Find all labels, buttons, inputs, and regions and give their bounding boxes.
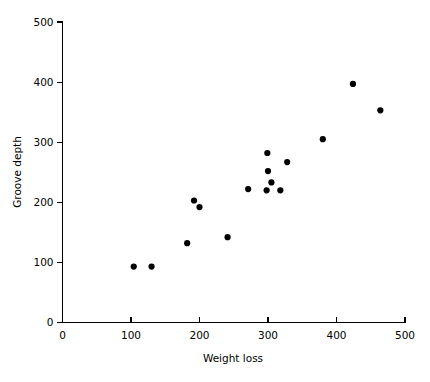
data-point xyxy=(264,150,270,156)
data-point xyxy=(350,81,356,87)
data-point xyxy=(264,187,270,193)
y-tick-label: 200 xyxy=(33,196,53,208)
x-tick-label: 0 xyxy=(59,329,66,341)
x-tick-label: 300 xyxy=(258,329,278,341)
y-tick-label: 400 xyxy=(33,76,53,88)
data-point xyxy=(377,107,383,113)
scatter-chart: 0100200300400500 0100200300400500 Weight… xyxy=(0,0,430,382)
y-axis-ticks: 0100200300400500 xyxy=(33,16,62,329)
data-point xyxy=(245,186,251,192)
y-axis-title: Groove depth xyxy=(11,136,23,208)
x-tick-label: 200 xyxy=(189,329,209,341)
data-point xyxy=(191,197,197,203)
y-tick-label: 100 xyxy=(33,256,53,268)
data-point xyxy=(320,136,326,142)
data-point xyxy=(277,187,283,193)
data-point xyxy=(148,264,154,270)
y-tick-label: 500 xyxy=(33,16,53,28)
data-point xyxy=(265,168,271,174)
data-point xyxy=(268,179,274,185)
y-tick-label: 0 xyxy=(47,316,54,328)
x-tick-label: 500 xyxy=(395,329,415,341)
x-axis-title: Weight loss xyxy=(203,352,263,364)
y-tick-label: 300 xyxy=(33,136,53,148)
data-point xyxy=(224,234,230,240)
scatter-plot-canvas: 0100200300400500 0100200300400500 Weight… xyxy=(0,0,430,382)
x-tick-label: 100 xyxy=(121,329,141,341)
data-points-layer xyxy=(131,81,384,270)
plot-axes xyxy=(63,22,406,323)
data-point xyxy=(196,204,202,210)
data-point xyxy=(131,264,137,270)
x-axis-ticks: 0100200300400500 xyxy=(59,317,415,341)
x-tick-label: 400 xyxy=(326,329,346,341)
data-point xyxy=(284,159,290,165)
data-point xyxy=(184,240,190,246)
